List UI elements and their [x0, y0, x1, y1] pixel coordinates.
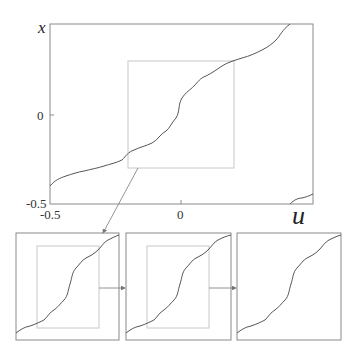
y-tick-label-0: 0: [37, 108, 44, 123]
main-plot-frame: [50, 24, 313, 204]
zoom-region-box: [128, 61, 234, 168]
zoom-panel-1: [16, 233, 119, 340]
panel-2-frame: [126, 233, 231, 340]
y-axis-label: x: [37, 18, 46, 37]
x-tick-label-neg-half: -0.5: [40, 207, 61, 222]
x-tick-label-0: 0: [177, 207, 184, 222]
main-curve: [50, 24, 290, 186]
panel-2-zoom-box: [147, 246, 209, 328]
panel-3-frame: [237, 233, 341, 340]
zoom-panel-3: [237, 233, 341, 340]
panel-2-curve: [126, 235, 231, 333]
panel-3-curve: [237, 235, 341, 333]
self-similar-curve-figure: x u 0 -0.5 -0.5 0: [0, 0, 358, 359]
panel-1-frame: [16, 233, 119, 340]
zoom-panel-2: [126, 233, 231, 340]
main-plot: x u 0 -0.5 -0.5 0: [26, 18, 313, 230]
panel-1-curve: [16, 235, 119, 333]
panel-1-zoom-box: [37, 246, 99, 328]
x-axis-label: u: [292, 201, 305, 230]
zoom-arrow-main-to-panel-1: [103, 168, 138, 233]
